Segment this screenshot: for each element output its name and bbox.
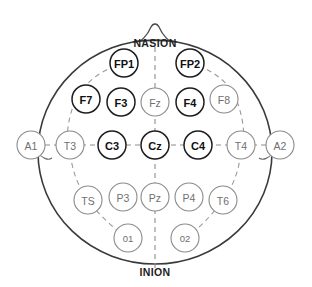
electrode-fp2[interactable]: FP2 — [176, 49, 204, 77]
electrode-label-f7: F7 — [80, 94, 93, 106]
electrode-f3[interactable]: F3 — [107, 88, 135, 116]
electrode-t6[interactable]: T6 — [209, 186, 237, 214]
electrode-label-cz: Cz — [148, 140, 162, 152]
electrode-a2[interactable]: A2 — [266, 131, 294, 159]
electrode-pz[interactable]: Pz — [141, 183, 169, 211]
eeg-electrode-diagram: NASION INION FP1FP2F7F3FzF4F8A1T3C3CzC4T… — [0, 0, 312, 287]
electrode-label-o2: 02 — [180, 233, 191, 244]
electrode-f7[interactable]: F7 — [72, 85, 100, 113]
electrode-label-p3: P3 — [117, 192, 130, 204]
electrode-label-t5: TS — [81, 195, 94, 207]
electrode-label-fp2: FP2 — [180, 58, 200, 70]
electrode-label-t3: T3 — [64, 140, 76, 152]
electrode-p4[interactable]: P4 — [175, 183, 203, 211]
electrode-label-fz: Fz — [149, 97, 161, 109]
electrode-t3[interactable]: T3 — [56, 131, 84, 159]
electrode-label-fp1: FP1 — [114, 58, 134, 70]
electrode-label-t6: T6 — [217, 195, 229, 207]
electrode-label-pz: Pz — [149, 192, 161, 204]
electrode-f8[interactable]: F8 — [210, 85, 238, 113]
electrode-o2[interactable]: 02 — [171, 224, 199, 252]
electrode-c3[interactable]: C3 — [98, 131, 126, 159]
electrode-f4[interactable]: F4 — [176, 88, 204, 116]
electrode-label-p4: P4 — [183, 192, 196, 204]
landmark-nasion: NASION — [133, 37, 176, 49]
electrode-label-a2: A2 — [274, 140, 287, 152]
electrode-fz[interactable]: Fz — [141, 88, 169, 116]
electrode-label-a1: A1 — [25, 140, 38, 152]
electrode-label-o1: 01 — [123, 233, 134, 244]
electrode-fp1[interactable]: FP1 — [110, 49, 138, 77]
electrode-a1[interactable]: A1 — [17, 131, 45, 159]
electrode-p3[interactable]: P3 — [109, 183, 137, 211]
landmark-inion: INION — [139, 266, 170, 278]
electrode-t5[interactable]: TS — [74, 186, 102, 214]
electrode-label-f3: F3 — [115, 97, 128, 109]
electrode-label-c3: C3 — [105, 140, 119, 152]
electrode-cz[interactable]: Cz — [141, 131, 169, 159]
electrode-label-f8: F8 — [218, 94, 230, 106]
electrode-label-c4: C4 — [191, 140, 206, 152]
electrode-c4[interactable]: C4 — [184, 131, 212, 159]
electrode-label-t4: T4 — [235, 140, 247, 152]
eeg-diagram-canvas: NASION INION FP1FP2F7F3FzF4F8A1T3C3CzC4T… — [0, 0, 312, 287]
electrode-label-f4: F4 — [184, 97, 198, 109]
electrode-o1[interactable]: 01 — [114, 224, 142, 252]
electrode-t4[interactable]: T4 — [227, 131, 255, 159]
